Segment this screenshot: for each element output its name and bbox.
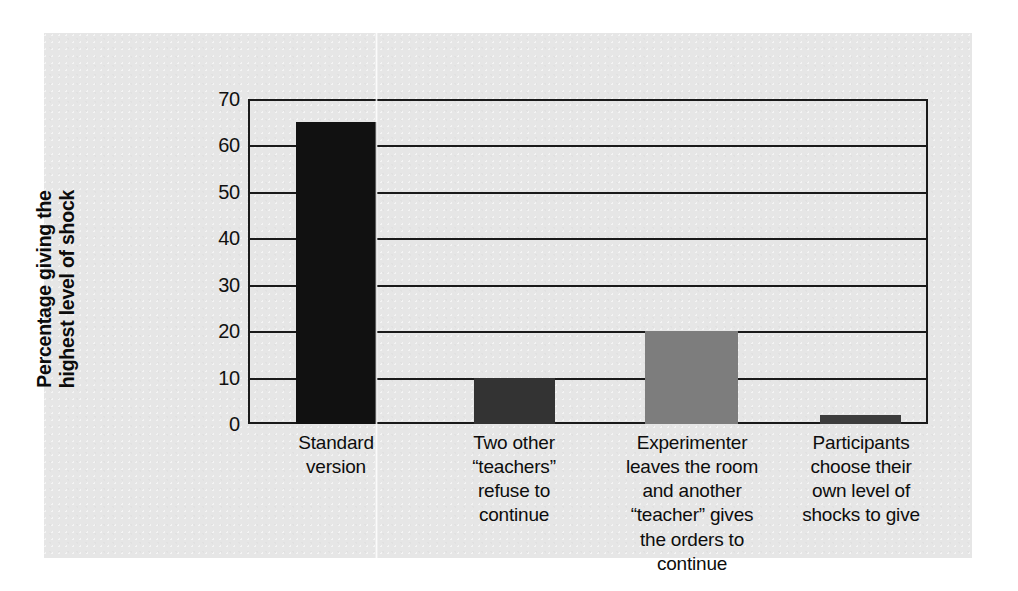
x-label-two-other-teachers: Two other “teachers” refuse to continue: [434, 431, 594, 528]
y-axis-title: Percentage giving the highest level of s…: [33, 139, 79, 439]
x-label-two-other-teachers-line-2: “teachers”: [434, 455, 594, 479]
y-tick-30: 30: [196, 275, 240, 295]
x-label-experimenter-leaves-line-2: leaves the room: [592, 455, 792, 479]
bar-standard-version: [296, 122, 377, 424]
bars-layer: [248, 99, 928, 424]
bar-participants-choose: [820, 415, 901, 424]
x-label-experimenter-leaves-line-5: the orders to: [592, 528, 792, 552]
x-label-experimenter-leaves-line-4: “teacher” gives: [592, 503, 792, 527]
y-tick-20: 20: [196, 321, 240, 341]
x-label-experimenter-leaves-line-6: continue: [592, 552, 792, 576]
x-label-two-other-teachers-line-4: continue: [434, 503, 594, 527]
y-tick-0: 0: [196, 414, 240, 434]
x-label-two-other-teachers-line-1: Two other: [434, 431, 594, 455]
x-label-two-other-teachers-line-3: refuse to: [434, 479, 594, 503]
x-label-participants-choose-line-3: own level of: [768, 479, 954, 503]
y-tick-10: 10: [196, 368, 240, 388]
x-label-participants-choose-line-4: shocks to give: [768, 503, 954, 527]
x-label-standard-version-line-1: Standard: [256, 431, 416, 455]
y-tick-50: 50: [196, 182, 240, 202]
bar-two-other-teachers: [474, 378, 555, 424]
figure-panel: Percentage giving the highest level of s…: [44, 33, 972, 558]
x-label-experimenter-leaves: Experimenter leaves the room and another…: [592, 431, 792, 576]
y-axis-title-line-2: highest level of shock: [56, 139, 79, 439]
y-axis-title-line-1: Percentage giving the: [33, 139, 56, 439]
y-axis-tick-labels: 0 10 20 30 40 50 60 70: [190, 99, 240, 424]
x-label-experimenter-leaves-line-3: and another: [592, 479, 792, 503]
bar-experimenter-leaves: [645, 331, 738, 424]
x-label-participants-choose: Participants choose their own level of s…: [768, 431, 954, 528]
x-label-standard-version-line-2: version: [256, 455, 416, 479]
x-axis-category-labels: Standard version Two other “teachers” re…: [248, 431, 928, 581]
x-label-participants-choose-line-1: Participants: [768, 431, 954, 455]
x-label-participants-choose-line-2: choose their: [768, 455, 954, 479]
y-tick-60: 60: [196, 135, 240, 155]
y-tick-40: 40: [196, 228, 240, 248]
x-label-standard-version: Standard version: [256, 431, 416, 479]
scanned-figure-page: Percentage giving the highest level of s…: [0, 0, 1018, 591]
y-tick-70: 70: [196, 89, 240, 109]
x-label-experimenter-leaves-line-1: Experimenter: [592, 431, 792, 455]
